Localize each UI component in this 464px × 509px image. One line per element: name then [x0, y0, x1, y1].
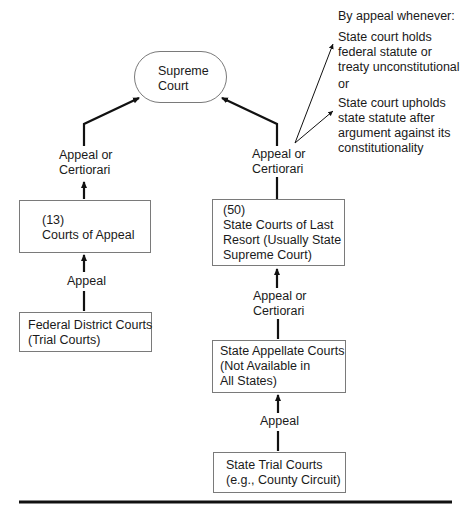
node-text: Supreme — [158, 64, 226, 79]
state-appellate-courts-node: State Appellate Courts (Not Available in… — [212, 340, 346, 393]
arrow-left-to-supreme — [84, 98, 139, 146]
edge-label-right-bottom: Appeal — [260, 414, 299, 429]
note-condition-1: State court holds federal statute or tre… — [338, 30, 460, 75]
note-condition-2: State court upholds state statute after … — [338, 96, 451, 156]
edge-label-left-bottom: Appeal — [67, 274, 106, 289]
arrow-right-to-supreme — [222, 98, 277, 146]
courts-of-appeal-node: (13) Courts of Appeal — [19, 200, 151, 253]
note-heading: By appeal whenever: — [338, 9, 455, 24]
edge-label-right-top: Appeal or Certiorari — [252, 147, 306, 177]
node-text: Court — [158, 79, 226, 94]
note-connector: or — [338, 77, 349, 92]
state-courts-last-resort-node: (50) State Courts of Last Resort (Usuall… — [212, 199, 345, 266]
note-arrow-1 — [295, 44, 333, 143]
edge-label-right-middle: Appeal or Certiorari — [253, 289, 307, 319]
supreme-court-node: Supreme Court — [134, 51, 227, 103]
federal-district-courts-node: Federal District Courts (Trial Courts) — [19, 312, 152, 352]
edge-label-left-top: Appeal or Certiorari — [59, 148, 113, 178]
state-trial-courts-node: State Trial Courts (e.g., County Circuit… — [213, 452, 346, 493]
